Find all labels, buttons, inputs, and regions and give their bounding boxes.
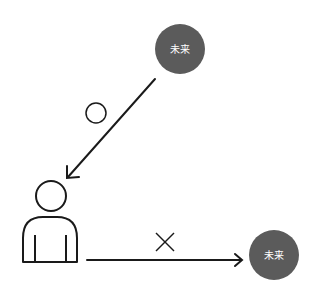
- diagonal-arrow: [67, 79, 155, 178]
- cross-mark-icon: [156, 233, 174, 251]
- person-icon: [23, 181, 77, 262]
- future-node-bottom: 未来: [249, 230, 299, 280]
- future-node-top: 未来: [155, 24, 205, 74]
- future-node-top-label: 未来: [170, 44, 190, 55]
- horizontal-arrow: [87, 254, 242, 266]
- diagram-canvas: 未来 未来: [0, 0, 319, 306]
- circle-mark-icon: [86, 103, 106, 123]
- future-node-bottom-label: 未来: [264, 250, 284, 261]
